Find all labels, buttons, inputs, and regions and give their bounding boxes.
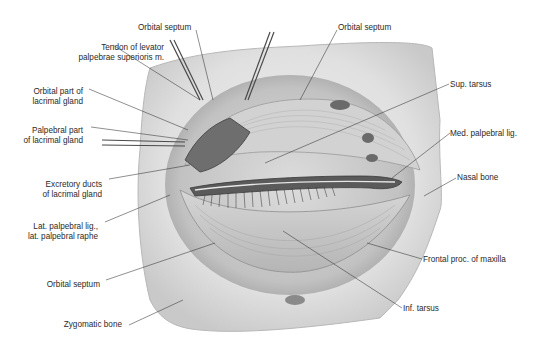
label-line: Orbital septum xyxy=(338,23,391,33)
anatomy-figure: Tendon of levator palpebrae superioris m… xyxy=(0,0,536,350)
label-med-palpebral-lig: Med. palpebral lig. xyxy=(450,129,517,139)
label-zygomatic-bone: Zygomatic bone xyxy=(50,320,122,330)
label-line: Orbital septum xyxy=(30,280,100,290)
label-line: Frontal proc. of maxilla xyxy=(423,255,506,265)
label-line: lat. palpebral raphe xyxy=(20,232,98,242)
label-line: Tendon of levator xyxy=(47,43,164,53)
label-orbital-part-lacrimal: Orbital part of lacrimal gland xyxy=(20,87,83,107)
label-orbital-septum-lower: Orbital septum xyxy=(30,280,100,290)
label-line: palpebrae superioris m. xyxy=(47,53,164,63)
label-line: Inf. tarsus xyxy=(403,304,439,314)
label-tendon-levator: Tendon of levator palpebrae superioris m… xyxy=(47,43,164,63)
label-line: Palpebral part xyxy=(20,126,83,136)
label-line: Orbital part of xyxy=(20,87,83,97)
label-nasal-bone: Nasal bone xyxy=(457,173,498,183)
label-line: Sup. tarsus xyxy=(450,80,491,90)
label-line: Zygomatic bone xyxy=(50,320,122,330)
label-line: lacrimal gland xyxy=(20,97,83,107)
label-sup-tarsus: Sup. tarsus xyxy=(450,80,491,90)
label-frontal-proc-maxilla: Frontal proc. of maxilla xyxy=(423,255,506,265)
label-line: Excretory ducts xyxy=(30,180,102,190)
label-inf-tarsus: Inf. tarsus xyxy=(403,304,439,314)
label-orbital-septum-top-left: Orbital septum xyxy=(138,23,191,33)
label-line: of lacrimal gland xyxy=(20,136,83,146)
label-excretory-ducts: Excretory ducts of lacrimal gland xyxy=(30,180,102,200)
label-palpebral-part-lacrimal: Palpebral part of lacrimal gland xyxy=(20,126,83,146)
label-orbital-septum-top-right: Orbital septum xyxy=(338,23,391,33)
label-line: Nasal bone xyxy=(457,173,498,183)
label-lat-palpebral-lig: Lat. palpebral lig., lat. palpebral raph… xyxy=(20,222,98,242)
label-line: of lacrimal gland xyxy=(30,190,102,200)
label-line: Orbital septum xyxy=(138,23,191,33)
label-line: Lat. palpebral lig., xyxy=(20,222,98,232)
label-line: Med. palpebral lig. xyxy=(450,129,517,139)
